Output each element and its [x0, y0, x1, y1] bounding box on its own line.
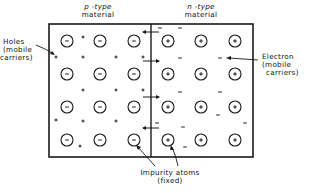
impurity-leader-left [137, 146, 155, 166]
acceptor-ion-negative [61, 101, 73, 113]
hole-plus-icon [142, 89, 145, 92]
impurity-label: Impurity atoms (fixed) [130, 169, 210, 185]
junction-box [49, 24, 253, 157]
donor-ion-positive [162, 134, 174, 146]
hole-plus-icon [55, 56, 58, 59]
acceptor-ion-negative [128, 35, 140, 47]
acceptor-ion-negative [128, 68, 140, 80]
donor-ion-positive [195, 68, 207, 80]
acceptor-ion-negative [94, 68, 106, 80]
p-type-label: p -type material [78, 3, 118, 19]
donor-ion-positive [229, 68, 241, 80]
acceptor-ion-negative [128, 101, 140, 113]
donor-ion-positive [162, 35, 174, 47]
hole-plus-icon [142, 56, 145, 59]
donor-ion-positive [162, 101, 174, 113]
hole-plus-icon [82, 89, 85, 92]
donor-ion-positive [195, 134, 207, 146]
hole-plus-icon [55, 119, 58, 122]
acceptor-ion-negative [128, 134, 140, 146]
donor-ion-positive [229, 35, 241, 47]
holes-line3: carriers) [0, 54, 33, 62]
hole-plus-icon [115, 56, 118, 59]
acceptor-ion-negative [94, 101, 106, 113]
leader-lines [36, 45, 258, 166]
acceptor-ion-negative [61, 134, 73, 146]
donor-ion-positive [229, 134, 241, 146]
acceptor-ion-negative [94, 35, 106, 47]
donor-ion-positive [195, 35, 207, 47]
hole-plus-icon [115, 120, 118, 123]
electron-label: Electron (mobile carriers) [262, 53, 299, 77]
n-type-label: n -type material [180, 3, 222, 19]
acceptor-ion-negative [94, 134, 106, 146]
p-type-line2: material [78, 11, 118, 19]
hole-plus-icon [82, 56, 85, 59]
impurity-line2: (fixed) [130, 177, 210, 185]
acceptor-ion-negative [61, 35, 73, 47]
pn-junction-diagram [0, 0, 312, 193]
hole-plus-icon [115, 89, 118, 92]
electron-leader-head [226, 56, 231, 60]
donor-ion-positive [229, 101, 241, 113]
holes-label: Holes (mobile carriers) [3, 38, 33, 62]
hole-plus-icon [82, 36, 85, 39]
electron-line3: carriers) [266, 69, 299, 77]
hole-plus-icon [82, 120, 85, 123]
acceptor-ion-negative [61, 68, 73, 80]
hole-plus-icon [79, 145, 82, 148]
n-type-line2: material [180, 11, 222, 19]
donor-ion-positive [195, 101, 207, 113]
donor-ion-positive [162, 68, 174, 80]
